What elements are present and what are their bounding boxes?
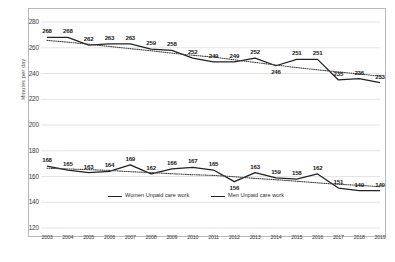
x-tick-2019: 2019: [369, 234, 391, 240]
data-label-women-2015: 251: [286, 49, 308, 56]
y-tick-120: 120: [17, 224, 39, 231]
x-tick-2016: 2016: [307, 234, 329, 240]
data-label-women-2004: 268: [57, 27, 79, 34]
data-label-men-2011: 165: [203, 160, 225, 167]
legend-label-men: Men Unpaid care work: [228, 192, 284, 198]
data-label-men-2014: 159: [265, 168, 287, 175]
data-label-women-2005: 262: [78, 35, 100, 42]
data-label-women-2013: 252: [244, 48, 266, 55]
x-tick-2011: 2011: [203, 234, 225, 240]
x-tick-2014: 2014: [265, 234, 287, 240]
data-label-women-2018: 236: [348, 69, 370, 76]
data-label-women-2006: 263: [98, 34, 120, 41]
data-label-women-2009: 258: [161, 40, 183, 47]
data-label-women-2019: 233: [369, 73, 391, 80]
x-tick-2008: 2008: [140, 234, 162, 240]
legend-swatch-men: [211, 196, 225, 197]
data-label-men-2004: 165: [57, 160, 79, 167]
x-tick-2015: 2015: [286, 234, 308, 240]
data-label-women-2012: 249: [223, 52, 245, 59]
data-label-men-2005: 163: [78, 163, 100, 170]
data-label-men-2003: 168: [36, 156, 58, 163]
y-tick-220: 220: [17, 95, 39, 102]
data-label-women-2008: 259: [140, 39, 162, 46]
y-tick-140: 140: [17, 198, 39, 205]
x-tick-2017: 2017: [327, 234, 349, 240]
x-tick-2009: 2009: [161, 234, 183, 240]
y-tick-180: 180: [17, 147, 39, 154]
x-tick-2007: 2007: [119, 234, 141, 240]
data-label-men-2012: 156: [223, 184, 245, 191]
data-label-men-2007: 169: [119, 155, 141, 162]
x-tick-2004: 2004: [57, 234, 79, 240]
data-label-men-2016: 162: [307, 164, 329, 171]
data-label-men-2018: 149: [348, 181, 370, 188]
x-tick-2013: 2013: [244, 234, 266, 240]
x-tick-2003: 2003: [36, 234, 58, 240]
data-label-women-2014: 246: [265, 68, 287, 75]
x-tick-2012: 2012: [223, 234, 245, 240]
data-label-women-2010: 252: [182, 48, 204, 55]
data-label-women-2017: 235: [327, 70, 349, 77]
data-label-women-2011: 249: [203, 52, 225, 59]
data-label-men-2015: 158: [286, 169, 308, 176]
data-label-men-2006: 164: [98, 161, 120, 168]
x-tick-2005: 2005: [78, 234, 100, 240]
y-tick-280: 280: [17, 18, 39, 25]
x-tick-2018: 2018: [348, 234, 370, 240]
y-tick-200: 200: [17, 121, 39, 128]
line-chart-plot: [0, 0, 395, 262]
legend-label-women: Women Unpaid care work: [125, 192, 189, 198]
data-label-men-2013: 163: [244, 163, 266, 170]
y-tick-160: 160: [17, 173, 39, 180]
y-tick-240: 240: [17, 70, 39, 77]
data-label-men-2008: 162: [140, 164, 162, 171]
data-label-men-2019: 149: [369, 181, 391, 188]
data-label-women-2016: 251: [307, 49, 329, 56]
x-tick-2010: 2010: [182, 234, 204, 240]
legend-swatch-women: [108, 196, 122, 197]
data-label-women-2003: 268: [36, 27, 58, 34]
data-label-women-2007: 263: [119, 34, 141, 41]
data-label-men-2009: 166: [161, 159, 183, 166]
x-tick-2006: 2006: [98, 234, 120, 240]
y-tick-260: 260: [17, 44, 39, 51]
data-label-men-2010: 167: [182, 157, 204, 164]
data-label-men-2017: 151: [327, 178, 349, 185]
